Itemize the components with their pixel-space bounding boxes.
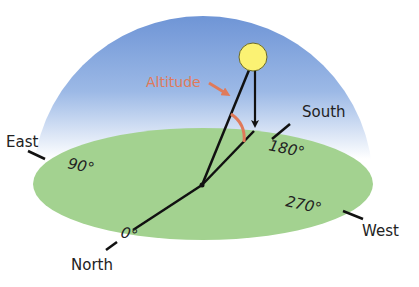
- south-label: South: [302, 103, 346, 121]
- east-label: East: [6, 133, 38, 151]
- observer-point: [200, 183, 205, 188]
- deg0-label: 0°: [119, 223, 139, 244]
- north-label: North: [71, 256, 113, 274]
- north-tick: [106, 242, 117, 250]
- sun-icon: [239, 43, 267, 71]
- west-tick: [343, 211, 363, 219]
- altitude-label: Altitude: [146, 74, 201, 90]
- altitude-diagram: Altitude South East West North 180° 90° …: [0, 0, 419, 287]
- west-label: West: [362, 222, 399, 240]
